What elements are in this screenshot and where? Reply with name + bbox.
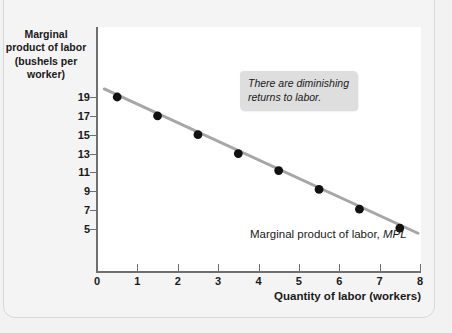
data-point: [274, 166, 283, 175]
annotation-diminishing-returns: There are diminishing returns to labor.: [240, 71, 357, 110]
series-label-prefix: Marginal product of labor,: [250, 228, 383, 240]
data-point: [113, 93, 122, 102]
chart-figure: Marginalproduct of labor(bushels perwork…: [0, 0, 452, 333]
series-label: Marginal product of labor, MPL: [250, 228, 407, 240]
data-point: [153, 111, 162, 120]
data-point: [355, 205, 364, 214]
series-plot: [0, 0, 452, 333]
data-point: [234, 149, 243, 158]
data-point: [194, 130, 203, 139]
data-point: [315, 185, 324, 194]
data-points: [113, 93, 404, 233]
trend-line: [104, 89, 418, 233]
series-label-emphasis: MPL: [383, 228, 407, 240]
